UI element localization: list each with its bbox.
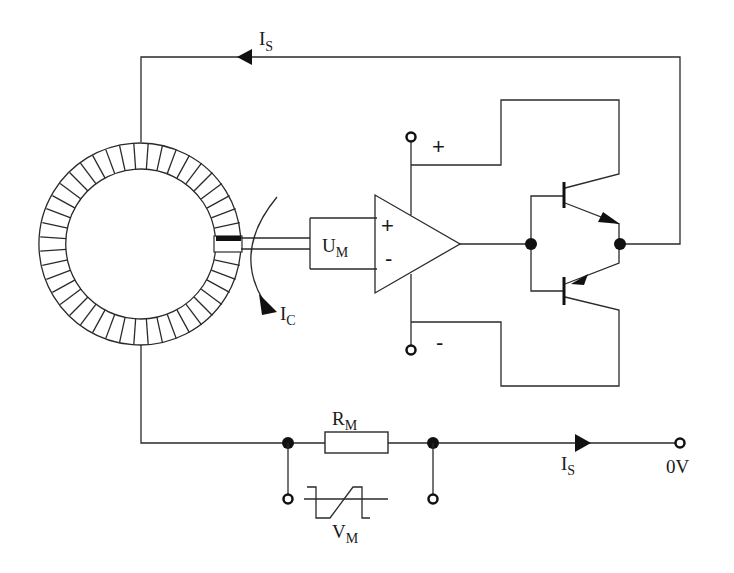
toroid-core <box>39 143 242 345</box>
label-ic: IC <box>280 303 296 328</box>
junction-node <box>525 238 537 250</box>
pnp-emitter-arrow-icon <box>571 274 588 285</box>
circuit-diagram: IS UM IC + - + - RM <box>0 0 734 573</box>
zero-v-terminal <box>676 439 685 448</box>
junction-node <box>614 238 626 250</box>
supply-minus-label: - <box>436 330 443 355</box>
npn-emitter-arrow-icon <box>598 212 620 224</box>
current-arrow-is-top-icon <box>237 49 252 65</box>
rm-resistor <box>325 432 388 453</box>
supply-minus-terminal <box>407 346 416 355</box>
supply-plus-terminal <box>407 133 416 142</box>
label-zero-v: 0V <box>666 456 690 477</box>
supply-plus-label: + <box>432 134 445 159</box>
label-um: UM <box>322 235 349 260</box>
vm-waveform <box>307 487 370 518</box>
current-arrow-ic-icon <box>259 294 277 315</box>
opamp <box>375 195 460 293</box>
opamp-minus-sign: - <box>385 246 392 271</box>
label-rm: RM <box>332 408 358 433</box>
opamp-plus-sign: + <box>381 213 394 238</box>
vm-terminal-right <box>429 495 438 504</box>
current-arrow-is-bottom-icon <box>575 434 591 452</box>
hall-sensor <box>216 236 241 241</box>
vm-terminal-left <box>284 495 293 504</box>
label-is-top: IS <box>259 28 273 54</box>
label-vm: VM <box>332 521 359 546</box>
label-is-bottom: IS <box>561 453 575 478</box>
